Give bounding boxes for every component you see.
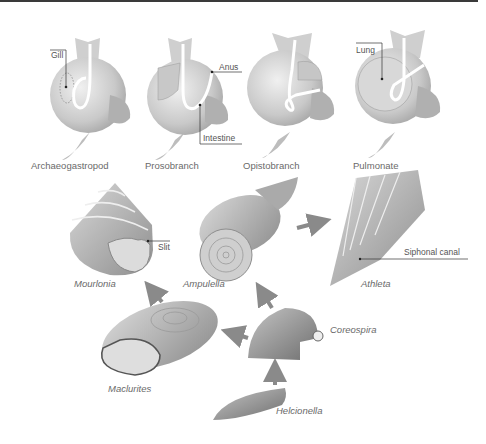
mourlonia-shell <box>70 183 170 275</box>
coreospira-shell <box>248 308 323 360</box>
callout-anus: Anus <box>219 63 238 72</box>
callout-siphonal-canal: Siphonal canal <box>404 248 460 257</box>
callout-slit: Slit <box>158 243 170 252</box>
caption-coreospira: Coreospira <box>330 325 376 335</box>
callout-gill: Gill <box>51 51 63 60</box>
caption-pulmonate: Pulmonate <box>353 161 398 171</box>
caption-opistobranch: Opistobranch <box>243 161 300 171</box>
caption-ampulella: Ampulella <box>183 279 225 289</box>
caption-archaeogastropod: Archaeogastropod <box>31 161 109 171</box>
caption-prosobranch: Prosobranch <box>145 161 199 171</box>
caption-helcionella: Helcionella <box>276 406 322 416</box>
callout-lung: Lung <box>356 46 375 55</box>
caption-mourlonia: Mourlonia <box>74 279 116 289</box>
caption-athleta: Athleta <box>361 279 391 289</box>
caption-maclurites: Maclurites <box>108 384 151 394</box>
callout-intestine: Intestine <box>203 134 235 143</box>
athleta-shell <box>330 170 468 286</box>
gastropod-diagram <box>0 0 486 444</box>
ampulella-shell <box>191 177 298 281</box>
opistobranch-figure <box>247 33 334 158</box>
